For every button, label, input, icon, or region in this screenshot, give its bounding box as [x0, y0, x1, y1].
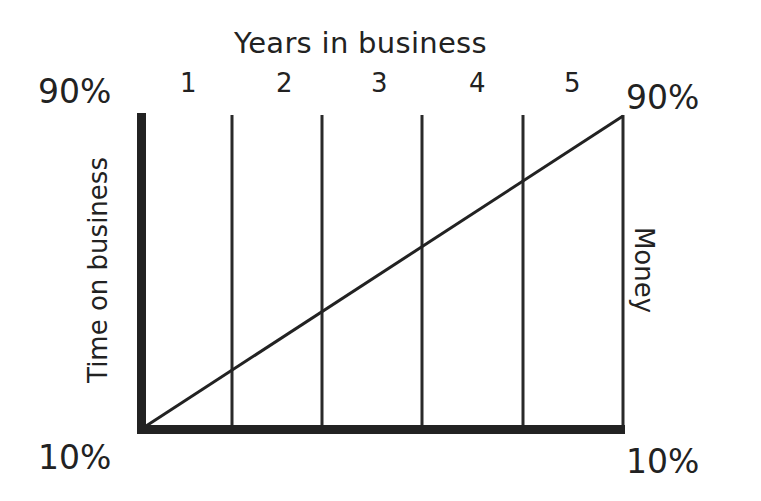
money-trend-line	[143, 116, 623, 428]
bottom-axis	[137, 425, 625, 434]
chart-plot	[0, 0, 761, 501]
left-axis	[137, 113, 146, 433]
